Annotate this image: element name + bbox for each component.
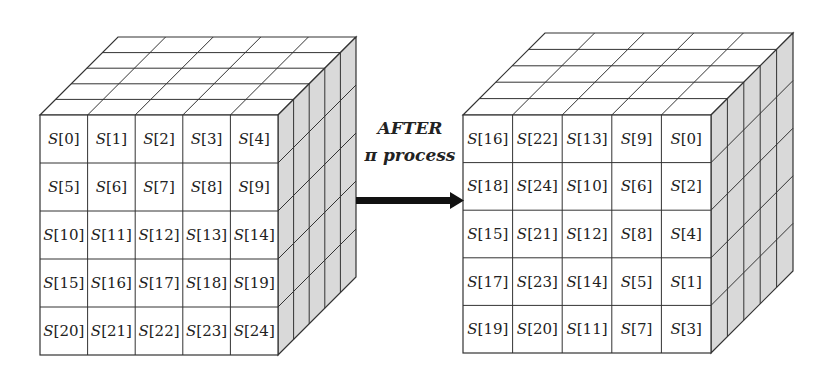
state-cell: S[0] bbox=[48, 130, 80, 148]
state-cell: S[21] bbox=[91, 322, 132, 340]
state-cell: S[8] bbox=[621, 225, 653, 243]
state-cell: S[24] bbox=[234, 322, 275, 340]
state-cell: S[22] bbox=[517, 130, 558, 148]
arrow-caption-line2: π process bbox=[350, 145, 470, 165]
state-cell: S[1] bbox=[96, 130, 128, 148]
state-cell: S[9] bbox=[621, 130, 653, 148]
state-cell: S[24] bbox=[517, 177, 558, 195]
state-cell: S[0] bbox=[670, 130, 702, 148]
state-cell: S[3] bbox=[670, 320, 702, 338]
state-cell: S[13] bbox=[566, 130, 607, 148]
state-cell: S[20] bbox=[517, 320, 558, 338]
state-cell: S[12] bbox=[138, 226, 179, 244]
state-cell: S[18] bbox=[467, 177, 508, 195]
before-cube: S[0]S[1]S[2]S[3]S[4]S[5]S[6]S[7]S[8]S[9]… bbox=[40, 37, 356, 355]
state-cell: S[5] bbox=[48, 178, 80, 196]
state-cell: S[20] bbox=[43, 322, 84, 340]
state-cell: S[7] bbox=[143, 178, 175, 196]
state-cell: S[15] bbox=[43, 274, 84, 292]
state-cell: S[17] bbox=[467, 273, 508, 291]
state-cell: S[3] bbox=[191, 130, 223, 148]
state-cell: S[19] bbox=[234, 274, 275, 292]
state-cell: S[8] bbox=[191, 178, 223, 196]
state-cell: S[22] bbox=[138, 322, 179, 340]
state-cell: S[10] bbox=[43, 226, 84, 244]
state-cell: S[16] bbox=[91, 274, 132, 292]
state-cell: S[18] bbox=[186, 274, 227, 292]
state-cell: S[14] bbox=[234, 226, 275, 244]
state-cell: S[11] bbox=[91, 226, 132, 244]
state-cell: S[19] bbox=[467, 320, 508, 338]
state-cell: S[13] bbox=[186, 226, 227, 244]
state-cell: S[7] bbox=[621, 320, 653, 338]
state-cell: S[15] bbox=[467, 225, 508, 243]
state-cell: S[1] bbox=[670, 273, 702, 291]
state-cell: S[2] bbox=[143, 130, 175, 148]
arrow-caption-line1: AFTER bbox=[350, 118, 470, 138]
state-cell: S[21] bbox=[517, 225, 558, 243]
state-cell: S[2] bbox=[670, 177, 702, 195]
state-cell: S[23] bbox=[186, 322, 227, 340]
state-cell: S[6] bbox=[96, 178, 128, 196]
state-cell: S[5] bbox=[621, 273, 653, 291]
state-cell: S[23] bbox=[517, 273, 558, 291]
state-cell: S[16] bbox=[467, 130, 508, 148]
state-cell: S[12] bbox=[566, 225, 607, 243]
state-cell: S[4] bbox=[238, 130, 270, 148]
pi-step-diagram: S[0]S[1]S[2]S[3]S[4]S[5]S[6]S[7]S[8]S[9]… bbox=[0, 0, 835, 376]
after-cube: S[16]S[22]S[13]S[9]S[0]S[18]S[24]S[10]S[… bbox=[463, 33, 793, 353]
state-cell: S[10] bbox=[566, 177, 607, 195]
state-cell: S[17] bbox=[138, 274, 179, 292]
transition-arrow bbox=[356, 192, 464, 209]
state-cell: S[14] bbox=[566, 273, 607, 291]
state-cell: S[11] bbox=[566, 320, 607, 338]
state-cell: S[6] bbox=[621, 177, 653, 195]
state-cell: S[4] bbox=[670, 225, 702, 243]
state-cell: S[9] bbox=[238, 178, 270, 196]
